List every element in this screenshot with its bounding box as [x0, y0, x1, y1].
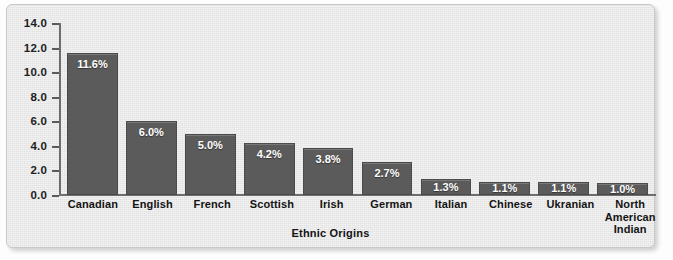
y-tick-label: 4.0 — [30, 140, 47, 152]
chart-panel: 14.012.010.08.06.04.02.00.0 11.6%6.0%5.0… — [6, 4, 655, 248]
x-category-label-line: Scottish — [242, 198, 302, 211]
x-category-label-line: Chinese — [481, 198, 541, 211]
bar-value-label: 6.0% — [127, 126, 176, 138]
bar-slot: 6.0% — [122, 23, 181, 195]
bar-slot: 5.0% — [181, 23, 240, 195]
y-tick-mark — [52, 97, 59, 99]
bar-slot: 2.7% — [358, 23, 417, 195]
y-tick-label: 12.0 — [24, 42, 47, 54]
bar-value-label: 4.2% — [245, 148, 294, 160]
x-category-label-line: Ukranian — [541, 198, 601, 211]
bar-value-label: 1.1% — [539, 182, 588, 194]
bar-value-label: 5.0% — [186, 139, 235, 151]
y-tick-label: 14.0 — [24, 17, 47, 29]
x-category-label-line: English — [123, 198, 183, 211]
bar-slot: 1.3% — [416, 23, 475, 195]
bar-value-label: 1.3% — [422, 181, 471, 193]
x-category-label-line: Canadian — [63, 198, 123, 211]
bar[interactable]: 5.0% — [185, 134, 236, 195]
bar-slot: 1.1% — [534, 23, 593, 195]
y-tick-label: 0.0 — [30, 189, 47, 201]
y-tick-label: 6.0 — [30, 115, 47, 127]
y-axis-line — [59, 23, 61, 195]
bar[interactable]: 3.8% — [303, 148, 354, 195]
bar-value-label: 1.1% — [480, 182, 529, 194]
bar[interactable]: 1.0% — [597, 183, 648, 195]
bar-value-label: 1.0% — [598, 183, 647, 195]
bar[interactable]: 1.3% — [421, 179, 472, 195]
chart-figure: 14.012.010.08.06.04.02.00.0 11.6%6.0%5.0… — [0, 0, 673, 260]
bar-series: 11.6%6.0%5.0%4.2%3.8%2.7%1.3%1.1%1.1%1.0… — [63, 23, 652, 195]
x-axis-title: Ethnic Origins — [7, 227, 654, 239]
y-tick-mark — [52, 72, 59, 74]
bar[interactable]: 11.6% — [67, 53, 118, 196]
bar-value-label: 3.8% — [304, 153, 353, 165]
bar-slot: 3.8% — [299, 23, 358, 195]
y-tick-mark — [52, 23, 59, 25]
y-tick-mark — [52, 48, 59, 50]
bar-slot: 4.2% — [240, 23, 299, 195]
y-tick-mark — [52, 121, 59, 123]
bar[interactable]: 1.1% — [538, 182, 589, 196]
x-category-label-line: American — [600, 211, 660, 224]
y-tick-label: 10.0 — [24, 66, 47, 78]
plot-area: 14.012.010.08.06.04.02.00.0 11.6%6.0%5.0… — [59, 23, 656, 195]
bar-value-label: 11.6% — [68, 58, 117, 70]
bar[interactable]: 2.7% — [362, 162, 413, 195]
bar[interactable]: 6.0% — [126, 121, 177, 195]
y-tick-mark — [52, 146, 59, 148]
bar-value-label: 2.7% — [363, 167, 412, 179]
bar[interactable]: 1.1% — [479, 182, 530, 196]
bar-slot: 1.1% — [475, 23, 534, 195]
y-tick-mark — [52, 170, 59, 172]
y-tick-label: 2.0 — [30, 164, 47, 176]
y-tick-label: 8.0 — [30, 91, 47, 103]
x-category-label-line: Irish — [302, 198, 362, 211]
bar-slot: 11.6% — [63, 23, 122, 195]
x-category-label-line: German — [362, 198, 422, 211]
bar-slot: 1.0% — [593, 23, 652, 195]
x-category-label-line: French — [182, 198, 242, 211]
bar[interactable]: 4.2% — [244, 143, 295, 195]
y-tick-mark — [52, 195, 59, 197]
x-category-label-line: North — [600, 198, 660, 211]
x-category-label-line: Italian — [421, 198, 481, 211]
